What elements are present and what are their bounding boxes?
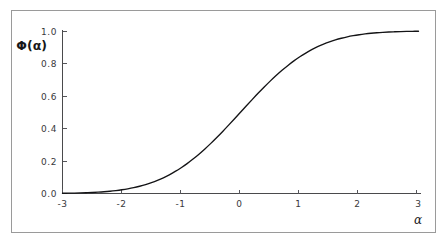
y-tick-label-0.2: 0.2 [41, 157, 57, 167]
x-tick-label-0: 0 [236, 199, 242, 209]
y-axis-title: Φ(α) [16, 38, 47, 53]
x-tick-label--3: -3 [57, 199, 67, 209]
x-tick-label-3: 3 [415, 199, 421, 209]
y-axis-ticks [63, 31, 68, 194]
y-tick-label-0.4: 0.4 [41, 124, 57, 134]
screenshot-root: 1.0 0.8 0.6 0.4 0.2 0.0 -3 -2 -1 0 1 2 3 [0, 0, 447, 251]
y-tick-label-0.0: 0.0 [41, 189, 57, 199]
cdf-plot: 1.0 0.8 0.6 0.4 0.2 0.0 -3 -2 -1 0 1 2 3 [0, 0, 447, 251]
phi-cdf-curve [63, 31, 419, 193]
x-axis-tick-labels: -3 -2 -1 0 1 2 3 [57, 199, 421, 209]
x-tick-label-1: 1 [295, 199, 301, 209]
y-tick-label-0.8: 0.8 [41, 59, 57, 69]
x-tick-label--1: -1 [175, 199, 185, 209]
y-tick-label-0.6: 0.6 [41, 92, 57, 102]
x-tick-label-2: 2 [354, 199, 360, 209]
y-tick-label-1.0: 1.0 [41, 27, 57, 37]
x-axis-title: α [414, 213, 422, 227]
x-tick-label--2: -2 [116, 199, 126, 209]
